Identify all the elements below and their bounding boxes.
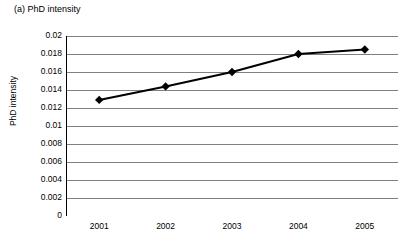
- y-axis-tick-label: 0.012: [41, 103, 62, 112]
- y-axis-tick-labels: 00.0020.0040.0060.0080.010.0120.0140.016…: [0, 0, 62, 243]
- y-axis-tick-label: 0.018: [41, 49, 62, 58]
- data-point-marker: [294, 50, 302, 58]
- data-point-marker: [228, 68, 236, 76]
- y-axis-tick-label: 0.02: [45, 31, 62, 40]
- y-axis-tick-label: 0: [57, 211, 62, 220]
- chart-plot-svg: [66, 36, 398, 216]
- y-axis-tick-label: 0.016: [41, 67, 62, 76]
- y-axis-tick-label: 0.01: [45, 121, 62, 130]
- data-point-marker: [161, 82, 169, 90]
- x-axis-tick-label: 2003: [223, 221, 242, 231]
- plot-area: [66, 36, 398, 216]
- y-axis-tick-label: 0.008: [41, 139, 62, 148]
- x-axis-tick-label: 2004: [289, 221, 308, 231]
- gridlines: [66, 36, 398, 198]
- x-axis-tick-label: 2002: [156, 221, 175, 231]
- data-point-marker: [361, 45, 369, 53]
- x-axis-tick-label: 2005: [355, 221, 374, 231]
- x-axis-tick-labels: 20012002200320042005: [66, 221, 398, 235]
- chart-figure: (a) PhD intensity PhD intensity 00.0020.…: [0, 0, 412, 243]
- y-axis-tick-label: 0.002: [41, 193, 62, 202]
- y-axis-tick-label: 0.004: [41, 175, 62, 184]
- data-point-marker: [95, 96, 103, 104]
- x-axis-tick-label: 2001: [90, 221, 109, 231]
- y-axis-tick-label: 0.006: [41, 157, 62, 166]
- y-axis-tick-label: 0.014: [41, 85, 62, 94]
